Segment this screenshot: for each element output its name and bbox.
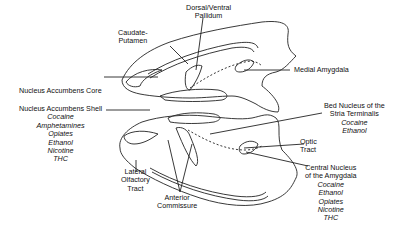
label-line: Tract <box>300 146 317 154</box>
lower-upper-lobe <box>168 113 220 124</box>
leader-anterior-commissure-a <box>168 140 180 192</box>
label-line: Tract <box>121 185 150 193</box>
upper-corpus-band <box>148 42 258 78</box>
label-dorsal-ventral-pallidum: Dorsal/Ventral Pallidum <box>186 4 231 21</box>
label-line: Commissure <box>157 202 197 210</box>
leader-bed-nucleus <box>210 113 322 134</box>
label-line: Nucleus Accumbens Core <box>19 87 102 95</box>
upper-pallidum-shape <box>185 65 202 90</box>
upper-accumbens-shape <box>126 70 162 87</box>
drug-item: THC <box>305 214 357 222</box>
label-anterior-commissure: Anterior Commissure <box>157 194 197 211</box>
label-central-nucleus: Central Nucleus of the Amygdala Cocaine … <box>305 164 357 223</box>
label-line: Putamen <box>118 37 148 45</box>
label-lateral-olfactory-tract: Lateral Olfactory Tract <box>121 168 150 193</box>
label-optic-tract: Optic Tract <box>300 138 317 155</box>
label-line: Medial Amygdala <box>294 66 349 74</box>
lower-accumbens-shape <box>124 131 158 144</box>
lower-pallidum-shape <box>176 127 198 166</box>
drug-item: Ethanol <box>324 127 385 135</box>
label-bed-nucleus: Bed Nucleus of the Stria Terminalis Coca… <box>324 102 385 136</box>
label-medial-amygdala: Medial Amygdala <box>294 66 349 74</box>
drug-item: THC <box>19 155 102 163</box>
upper-section-outline <box>122 22 296 113</box>
label-caudate-putamen: Caudate- Putamen <box>118 29 148 46</box>
leader-optic-tract <box>244 144 304 148</box>
label-nucleus-accumbens-core: Nucleus Accumbens Core <box>19 87 102 95</box>
leader-dorsal-ventral-pallidum <box>196 18 203 70</box>
leader-central-nucleus <box>246 152 308 166</box>
lower-dotted-tract <box>188 130 262 150</box>
label-line: Pallidum <box>186 12 231 20</box>
label-nucleus-accumbens-shell: Nucleus Accumbens Shell Cocaine Amphetam… <box>19 105 102 164</box>
upper-lower-lobe <box>160 89 227 101</box>
